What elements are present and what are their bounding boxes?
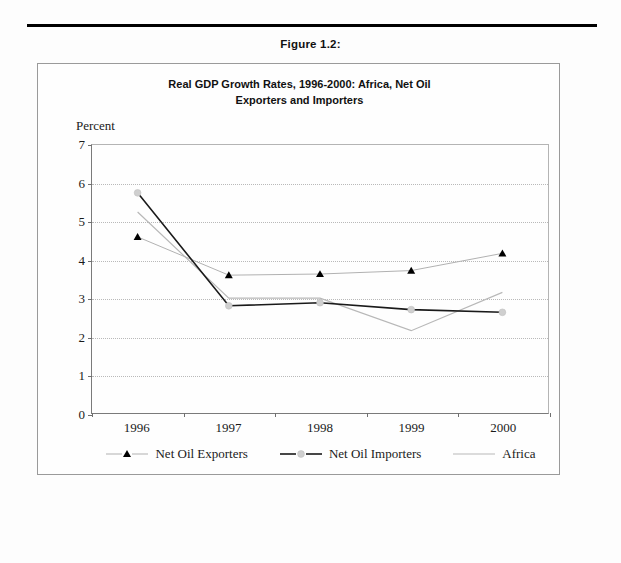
data-point-marker-circle <box>134 189 141 196</box>
legend-item: Net Oil Importers <box>278 446 421 462</box>
x-tick-label: 1999 <box>367 420 457 436</box>
data-point-marker-triangle <box>498 249 506 256</box>
figure-page: Figure 1.2: Real GDP Growth Rates, 1996-… <box>0 0 621 563</box>
y-tick-label: 4 <box>57 253 85 269</box>
x-tick-label: 2000 <box>458 420 548 436</box>
plot-area: 01234567 <box>91 144 549 414</box>
legend-swatch-none-icon <box>451 448 497 460</box>
legend-swatch-triangle-icon <box>104 448 150 460</box>
x-tick-label: 1996 <box>92 420 182 436</box>
series-line <box>138 237 503 275</box>
data-point-marker-circle <box>499 309 506 316</box>
legend-swatch-circle-icon <box>278 448 324 460</box>
x-tick-mark <box>275 413 276 417</box>
legend-item: Africa <box>451 446 535 462</box>
legend-label: Net Oil Exporters <box>155 446 247 462</box>
data-point-marker-circle <box>408 306 415 313</box>
chart-frame: Real GDP Growth Rates, 1996-2000: Africa… <box>37 63 560 475</box>
y-tick-label: 6 <box>57 176 85 192</box>
x-tick-mark <box>367 413 368 417</box>
series-layer <box>92 145 548 413</box>
legend-label: Africa <box>502 446 535 462</box>
data-point-marker-circle <box>225 302 232 309</box>
data-point-marker-circle <box>317 299 324 306</box>
top-rule-divider <box>27 24 597 27</box>
x-tick-label: 1997 <box>183 420 273 436</box>
data-point-marker-triangle <box>134 233 142 240</box>
legend-item: Net Oil Exporters <box>104 446 247 462</box>
y-axis-unit-label: Percent <box>76 118 115 134</box>
y-tick-label: 1 <box>57 368 85 384</box>
y-tick-label: 7 <box>57 137 85 153</box>
x-tick-mark <box>184 413 185 417</box>
y-tick-label: 5 <box>57 214 85 230</box>
x-tick-mark <box>550 413 551 417</box>
chart-legend: Net Oil ExportersNet Oil ImportersAfrica <box>91 446 549 462</box>
chart-title: Real GDP Growth Rates, 1996-2000: Africa… <box>68 76 531 108</box>
x-tick-mark <box>92 413 93 417</box>
x-tick-mark <box>458 413 459 417</box>
chart-title-line-1: Real GDP Growth Rates, 1996-2000: Africa… <box>68 76 531 92</box>
y-tick-label: 2 <box>57 330 85 346</box>
y-tick-label: 0 <box>57 407 85 423</box>
series-line <box>138 193 503 312</box>
y-tick-label: 3 <box>57 291 85 307</box>
chart-title-line-2: Exporters and Importers <box>68 92 531 108</box>
x-tick-label: 1998 <box>275 420 365 436</box>
figure-caption: Figure 1.2: <box>0 38 621 50</box>
legend-label: Net Oil Importers <box>329 446 421 462</box>
